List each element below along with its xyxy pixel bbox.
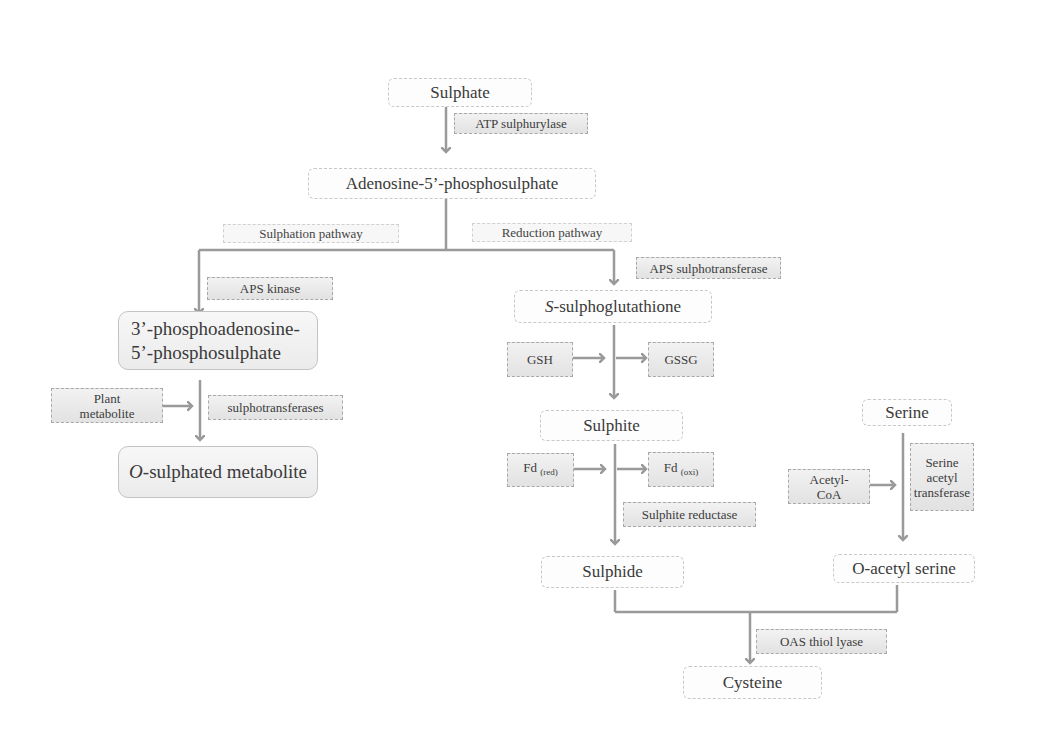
node-s-sulphoglutathione: S-sulphoglutathione [514,290,712,323]
node-serine: Serine [862,399,952,426]
fd-oxi-subscript: (oxi) [681,467,699,477]
label-rest: -sulphoglutathione [554,297,681,316]
enzyme-label-line-2: acetyl [926,470,957,485]
cofactor-label-line-2: metabolite [80,406,135,421]
cofactor-acetyl-coa: Acetyl- CoA [788,469,870,504]
cofactor-label: Fd (oxi) [664,460,698,480]
node-sulphide: Sulphide [541,556,684,588]
enzyme-label-line-1: Serine [925,455,958,470]
cofactor-label-line-1: Plant [94,391,121,406]
cofactor-label: GSH [527,352,553,367]
enzyme-serine-acetyl-transferase: Serine acetyl transferase [910,443,974,511]
node-sulphite: Sulphite [540,410,683,441]
enzyme-label-line-3: transferase [914,485,970,500]
node-o-sulphated-metabolite: O-sulphated metabolite [118,446,318,498]
node-label: Sulphite [583,416,640,436]
node-sulphate: Sulphate [388,78,532,107]
node-o-acetyl-serine: O-acetyl serine [833,554,975,583]
cofactor-label: Fd (red) [523,460,557,480]
node-label: O-acetyl serine [852,559,955,579]
label-reduction-pathway: Reduction pathway [472,223,632,242]
enzyme-aps-kinase: APS kinase [207,277,333,300]
cofactor-plant-metabolite: Plant metabolite [51,388,163,423]
node-label: Cysteine [723,673,783,693]
enzyme-sulphotransferases: sulphotransferases [208,395,343,420]
cofactor-fd-oxi: Fd (oxi) [648,452,714,487]
fd-text: Fd [523,460,537,475]
fd-text: Fd [664,460,678,475]
cofactor-label-line-1: Acetyl- [810,472,849,487]
node-label: S-sulphoglutathione [545,297,681,317]
fd-red-subscript: (red) [540,467,558,477]
enzyme-label: ATP sulphurylase [475,116,567,131]
cofactor-label-line-2: CoA [817,487,842,502]
node-adenosine-5-phosphosulphate: Adenosine-5’-phosphosulphate [308,168,596,199]
italic-prefix: O [129,461,143,482]
cofactor-label: GSSG [664,352,697,367]
enzyme-atp-sulphurylase: ATP sulphurylase [454,113,588,134]
cofactor-gsh: GSH [507,342,573,377]
enzyme-oas-thiol-lyase: OAS thiol lyase [756,629,887,654]
paps-line-1: 3’-phosphoadenosine- [131,318,300,339]
node-label: 3’-phosphoadenosine-5’-phosphosulphate [131,317,300,365]
node-cysteine: Cysteine [683,666,822,699]
node-label: Serine [885,403,928,423]
cofactor-fd-red: Fd (red) [507,453,574,487]
enzyme-aps-sulphotransferase: APS sulphotransferase [636,257,781,279]
paps-line-2: 5’-phosphosulphate [131,342,281,363]
cofactor-gssg: GSSG [648,342,714,377]
enzyme-label: APS kinase [240,281,300,296]
node-label: Sulphide [582,562,642,582]
enzyme-label: APS sulphotransferase [649,261,767,276]
node-label: Adenosine-5’-phosphosulphate [346,174,558,194]
label-sulphation-pathway: Sulphation pathway [223,224,399,243]
node-label: Sulphate [430,83,490,103]
italic-prefix: S [545,297,554,316]
node-paps: 3’-phosphoadenosine-5’-phosphosulphate [118,311,318,370]
enzyme-label: Sulphite reductase [642,507,738,522]
node-label: O-sulphated metabolite [129,460,307,484]
enzyme-label: sulphotransferases [227,400,323,415]
label-rest: -sulphated metabolite [143,461,307,482]
enzyme-sulphite-reductase: Sulphite reductase [623,502,756,527]
pathway-label: Sulphation pathway [259,226,363,242]
pathway-label: Reduction pathway [502,225,603,241]
enzyme-label: OAS thiol lyase [780,634,863,649]
